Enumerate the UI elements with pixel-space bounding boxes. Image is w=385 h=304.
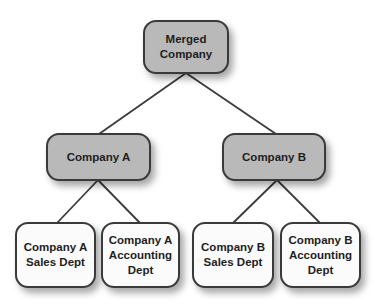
node-merged-company: Merged Company [143,20,229,74]
node-label: Merged Company [160,32,212,62]
node-label: Company B Sales Dept [201,240,265,270]
node-company-a: Company A [46,133,151,181]
node-label: Company A Accounting Dept [109,233,172,278]
node-label: Company B [242,150,306,165]
connector-company-a-to-sales [57,180,98,223]
node-label: Company B Accounting Dept [289,233,353,278]
node-company-a-accounting-dept: Company A Accounting Dept [101,222,180,288]
node-company-a-sales-dept: Company A Sales Dept [15,222,96,288]
connector-merged-to-company-a [99,73,186,134]
connector-company-b-to-accounting [277,180,320,223]
connector-merged-to-company-b [186,73,276,134]
connector-company-b-to-sales [233,180,277,223]
node-label: Company A [67,150,130,165]
node-company-b-accounting-dept: Company B Accounting Dept [280,222,361,288]
node-company-b: Company B [222,133,326,181]
node-company-b-sales-dept: Company B Sales Dept [192,222,274,288]
connector-company-a-to-accounting [98,180,140,223]
org-chart-diagram: Merged Company Company A Company B Compa… [0,0,385,304]
node-label: Company A Sales Dept [24,240,87,270]
